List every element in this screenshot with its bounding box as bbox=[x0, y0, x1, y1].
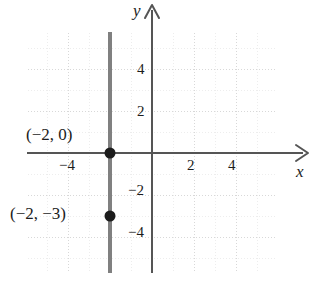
point-label-a: (−2, 0) bbox=[26, 126, 72, 143]
y-axis-label: y bbox=[133, 2, 141, 19]
y-tick-label-4: 4 bbox=[137, 62, 145, 77]
plotted-point-b bbox=[105, 211, 116, 222]
x-axis-label: x bbox=[296, 163, 304, 180]
y-tick-label-negative-2: −2 bbox=[128, 183, 144, 198]
y-tick-label-negative-4: −4 bbox=[128, 225, 144, 240]
x-tick-label-4: 4 bbox=[228, 158, 236, 173]
x-tick-label-negative-4: −4 bbox=[59, 158, 75, 173]
point-label-b: (−2, −3) bbox=[10, 205, 66, 222]
x-tick-label-2: 2 bbox=[187, 158, 195, 173]
plotted-point-a bbox=[105, 148, 116, 159]
graph-figure: y x −4 2 4 4 2 −2 −4 (−2, 0) (−2, −3) bbox=[0, 0, 319, 284]
y-tick-label-2: 2 bbox=[137, 104, 145, 119]
